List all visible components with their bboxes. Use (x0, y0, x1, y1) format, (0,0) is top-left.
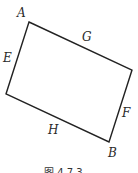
figure-caption: 图 4.7.3 (44, 167, 83, 173)
label-h: H (47, 123, 59, 137)
label-f: F (121, 106, 131, 120)
label-g: G (82, 30, 92, 44)
label-e: E (2, 51, 12, 65)
label-b: B (107, 146, 117, 160)
label-a: A (16, 6, 26, 20)
rectangle-abcd (6, 22, 132, 142)
diagram-canvas: A G E F H B 图 4.7.3 (0, 0, 138, 173)
